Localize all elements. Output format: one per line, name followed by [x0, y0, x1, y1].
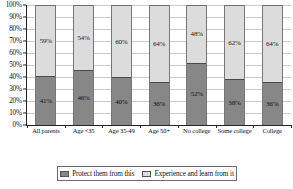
x-axis-tick-mark — [216, 125, 217, 128]
x-axis-tick-mark — [178, 125, 179, 128]
y-axis-tick-label: 60% — [9, 49, 22, 57]
bar-segment-experience: 59% — [36, 5, 55, 76]
x-axis-tick-mark — [65, 125, 66, 128]
y-axis-tick-label: 30% — [9, 85, 22, 93]
bar-group: 60%40% — [102, 5, 140, 125]
y-axis: 0%10%20%30%40%50%60%70%80%90%100% — [0, 5, 26, 126]
bar-value-label: 46% — [77, 94, 89, 102]
y-axis-tick-label: 90% — [9, 13, 22, 21]
bar-value-label: 54% — [77, 34, 89, 42]
chart-legend: Protect them from this Experience and le… — [57, 166, 237, 181]
x-axis-line — [26, 125, 291, 126]
y-axis-tick-label: 0% — [13, 121, 22, 129]
bar-segment-experience: 60% — [112, 5, 131, 77]
bar-segment-experience: 64% — [263, 5, 282, 82]
stacked-bar: 60%40% — [111, 5, 132, 125]
x-axis-label: Some college — [216, 127, 254, 135]
bar-segment-protect: 40% — [112, 77, 131, 125]
x-axis-tick-mark — [27, 125, 28, 128]
y-axis-tick-label: 100% — [6, 1, 22, 9]
stacked-bar: 64%36% — [149, 5, 170, 125]
stacked-bar-chart: Parents of children under 18 0%10%20%30%… — [0, 0, 293, 189]
bar-value-label: 48% — [191, 30, 203, 38]
x-axis-label: Age <35 — [65, 127, 103, 135]
stacked-bar: 48%52% — [186, 5, 207, 125]
x-axis-tick-mark — [102, 125, 103, 128]
bar-segment-experience: 48% — [187, 5, 206, 63]
stacked-bar: 59%41% — [35, 5, 56, 125]
x-axis-labels: All parentsAge <35Age 35-49Age 50+No col… — [27, 127, 291, 135]
x-axis-label: Age 35-49 — [102, 127, 140, 135]
x-axis-label: All parents — [27, 127, 65, 135]
bar-value-label: 41% — [40, 97, 52, 105]
stacked-bar: 54%46% — [73, 5, 94, 125]
legend-swatch-icon-protect — [60, 171, 69, 177]
bar-segment-protect: 52% — [187, 63, 206, 125]
bar-value-label: 36% — [153, 100, 165, 108]
bar-segment-experience: 64% — [150, 5, 169, 82]
bar-value-label: 52% — [191, 90, 203, 98]
bar-group: 59%41% — [27, 5, 65, 125]
bar-value-label: 60% — [115, 38, 127, 46]
bar-group: 48%52% — [178, 5, 216, 125]
bar-value-label: 38% — [228, 99, 240, 107]
x-axis-tick-mark — [253, 125, 254, 128]
bar-segment-protect: 36% — [150, 82, 169, 125]
bars-container: 59%41%54%46%60%40%64%36%48%52%62%38%64%3… — [27, 5, 291, 125]
bar-value-label: 59% — [40, 37, 52, 45]
bar-segment-protect: 41% — [36, 76, 55, 125]
y-axis-tick-label: 40% — [9, 73, 22, 81]
bar-group: 64%36% — [140, 5, 178, 125]
y-axis-tick-label: 70% — [9, 37, 22, 45]
plot-area: 0%10%20%30%40%50%60%70%80%90%100% 59%41%… — [0, 5, 293, 135]
legend-label-experience: Experience and learn from it — [154, 170, 233, 178]
x-axis-label: Age 50+ — [140, 127, 178, 135]
bar-value-label: 36% — [266, 100, 278, 108]
bar-group: 54%46% — [65, 5, 103, 125]
bar-group: 64%36% — [253, 5, 291, 125]
bar-segment-protect: 38% — [225, 79, 244, 125]
y-axis-tick-label: 80% — [9, 25, 22, 33]
chart-title-text: Parents of children under 18 — [98, 0, 194, 1]
legend-swatch-icon-experience — [142, 171, 151, 177]
x-axis-tick-mark — [291, 125, 292, 128]
x-axis-label: No college — [178, 127, 216, 135]
bar-value-label: 64% — [266, 40, 278, 48]
bar-segment-experience: 54% — [74, 5, 93, 70]
legend-item-protect: Protect them from this — [60, 170, 134, 178]
bar-group: 62%38% — [216, 5, 254, 125]
bar-value-label: 64% — [153, 40, 165, 48]
bar-segment-experience: 62% — [225, 5, 244, 79]
bar-value-label: 40% — [115, 98, 127, 106]
legend-label-protect: Protect them from this — [72, 170, 134, 178]
legend-item-experience: Experience and learn from it — [142, 170, 233, 178]
y-axis-tick-label: 20% — [9, 97, 22, 105]
y-axis-tick-label: 10% — [9, 109, 22, 117]
bar-segment-protect: 46% — [74, 70, 93, 125]
bar-segment-protect: 36% — [263, 82, 282, 125]
stacked-bar: 64%36% — [262, 5, 283, 125]
bar-value-label: 62% — [228, 39, 240, 47]
y-axis-tick-label: 50% — [9, 61, 22, 69]
stacked-bar: 62%38% — [224, 5, 245, 125]
x-axis-label: College — [253, 127, 291, 135]
x-axis-tick-mark — [140, 125, 141, 128]
